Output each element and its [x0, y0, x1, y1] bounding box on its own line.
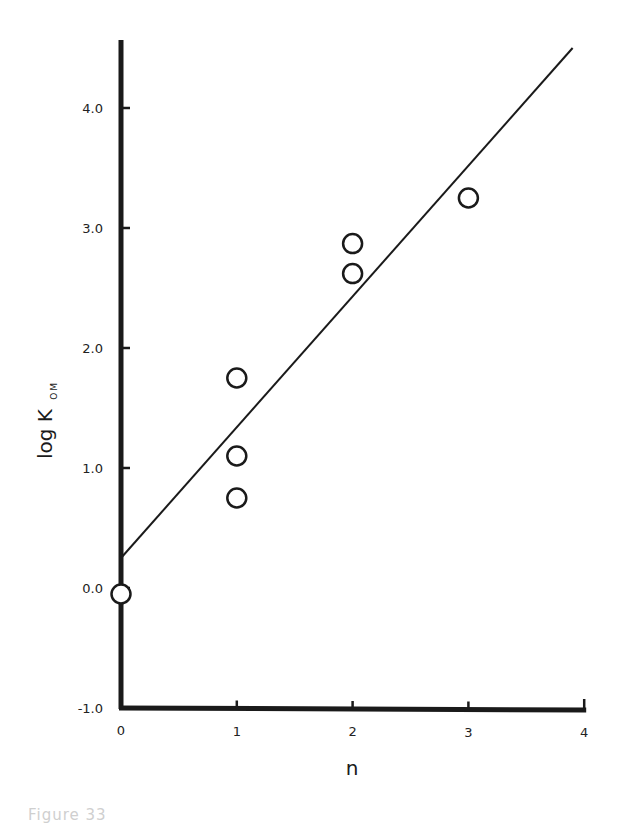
fit-line	[121, 48, 573, 558]
data-point	[343, 264, 362, 283]
y-tick-label: 2.0	[82, 341, 103, 356]
y-tick-label: 3.0	[82, 221, 103, 236]
y-axis-title-subscript: OM	[49, 381, 59, 400]
regression-line	[121, 48, 573, 558]
data-point	[227, 489, 246, 508]
data-points	[112, 189, 478, 604]
y-axis-title-main: log K	[33, 408, 57, 459]
data-point	[459, 189, 478, 208]
y-axis-title: log K OM	[33, 381, 59, 459]
x-tick-label: 4	[580, 725, 588, 740]
x-tick-label: 3	[464, 725, 472, 740]
y-tick-label: 4.0	[82, 101, 103, 116]
data-point	[227, 369, 246, 388]
figure-caption: Figure 33	[28, 806, 107, 824]
data-point	[112, 585, 131, 604]
y-tick-label: 1.0	[82, 461, 103, 476]
x-tick-label: 0	[117, 723, 125, 738]
ticks: -1.00.01.02.03.04.001234	[78, 101, 589, 740]
x-tick-label: 2	[348, 724, 356, 739]
x-tick-label: 1	[233, 724, 241, 739]
data-point	[227, 447, 246, 466]
y-tick-label: -1.0	[78, 701, 103, 716]
x-axis-title: n	[346, 756, 359, 780]
axes	[119, 40, 586, 710]
data-point	[343, 234, 362, 253]
y-tick-label: 0.0	[82, 581, 103, 596]
